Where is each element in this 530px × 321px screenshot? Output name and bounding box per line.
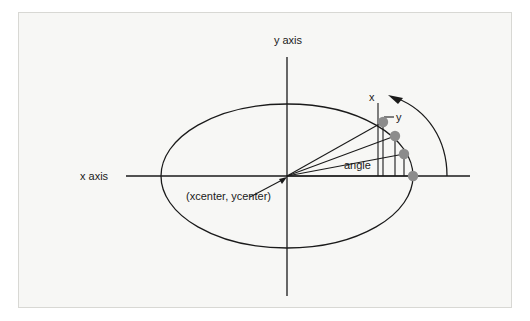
x-component-label: x [369, 91, 375, 103]
y-component-label: y [396, 111, 402, 123]
radial-line [287, 136, 395, 176]
sample-point-marker [408, 171, 418, 181]
y-axis-label: y axis [274, 34, 303, 46]
drop-lines [383, 122, 404, 176]
rotation-arrow-head [388, 95, 403, 104]
center-leader-arrow-head [279, 177, 287, 184]
center-label: (xcenter, ycenter) [186, 190, 271, 202]
ellipse-diagram: x axis y axis (xcenter, ycenter) angle x… [0, 0, 530, 321]
sample-point-markers [378, 117, 418, 181]
sample-point-marker [390, 131, 400, 141]
x-axis-label: x axis [80, 170, 109, 182]
angle-label: angle [344, 159, 371, 171]
sample-point-marker [399, 149, 409, 159]
figure-page: x axis y axis (xcenter, ycenter) angle x… [0, 0, 530, 321]
sample-point-marker [378, 117, 388, 127]
